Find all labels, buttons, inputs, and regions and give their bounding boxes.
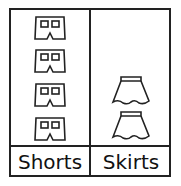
shorts-icon: [33, 117, 67, 145]
shorts-icon: [33, 83, 67, 111]
shorts-icon: [33, 16, 67, 44]
category-label-skirts: Skirts: [91, 147, 171, 177]
category-label-shorts: Shorts: [11, 147, 89, 177]
shorts-icon: [33, 49, 67, 77]
skirt-icon: [111, 76, 151, 110]
skirt-icon: [111, 111, 151, 145]
